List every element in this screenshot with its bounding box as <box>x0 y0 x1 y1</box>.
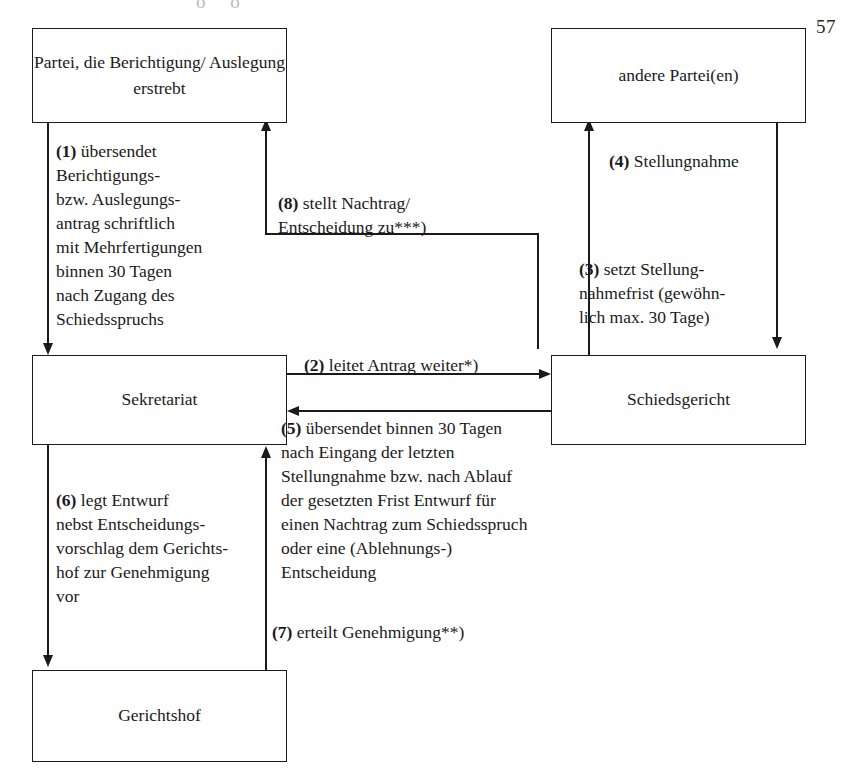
edge-2-label: (2) leitet Antrag weiter*) <box>304 354 554 378</box>
edge-1-text: übersendet Berichtigungs- bzw. Auslegung… <box>56 141 202 329</box>
edge-6-text: legt Entwurf nebst Entscheidungs- vorsch… <box>56 490 228 606</box>
edge-4-number: (4) <box>609 151 629 171</box>
node-party-label: Partei, die Berichtigung/ Auslegung erst… <box>33 50 286 101</box>
scan-artifact: o o <box>196 0 250 13</box>
edge-8-label: (8) stellt Nachtrag/ Entscheidung zu***) <box>278 192 538 240</box>
node-secretariat-label: Sekretariat <box>122 387 198 412</box>
edge-8-number: (8) <box>278 193 298 213</box>
edge-3-text: setzt Stellung- nahmefrist (gewöhn- lich… <box>579 259 725 327</box>
node-other-party-label: andere Partei(en) <box>619 63 739 88</box>
edge-8-text: stellt Nachtrag/ Entscheidung zu***) <box>278 193 426 237</box>
node-tribunal-label: Schiedsgericht <box>627 387 730 412</box>
edge-7-arrowhead <box>261 446 271 458</box>
edge-7-label: (7) erteilt Genehmigung**) <box>272 621 552 645</box>
edge-4-label: (4) Stellungnahme <box>609 150 809 174</box>
edge-1-label: (1) übersendet Berichtigungs- bzw. Ausle… <box>56 140 271 332</box>
edge-5-number: (5) <box>281 418 301 438</box>
edge-8-line-riser <box>537 233 539 349</box>
node-court-label: Gerichtshof <box>118 703 201 728</box>
edge-3-number: (3) <box>579 259 599 279</box>
flowchart-page: o o 57 Partei, die Berichtigung/ Auslegu… <box>0 0 850 778</box>
edge-1-number: (1) <box>56 141 76 161</box>
edge-6-number: (6) <box>56 490 76 510</box>
edge-4-text: Stellungnahme <box>629 151 738 171</box>
node-party: Partei, die Berichtigung/ Auslegung erst… <box>32 28 287 123</box>
node-tribunal: Schiedsgericht <box>551 355 806 445</box>
node-other-party: andere Partei(en) <box>551 28 806 123</box>
edge-7-number: (7) <box>272 622 292 642</box>
edge-1-line <box>47 123 49 349</box>
edge-5-line <box>299 410 551 412</box>
page-number: 57 <box>816 16 836 38</box>
edge-1-arrowhead <box>43 343 53 355</box>
edge-2-number: (2) <box>304 355 324 375</box>
edge-6-label: (6) legt Entwurf nebst Entscheidungs- vo… <box>56 489 271 609</box>
edge-7-text: erteilt Genehmigung**) <box>292 622 464 642</box>
edge-3-arrowhead <box>772 337 782 349</box>
edge-5-label: (5) übersendet binnen 30 Tagen nach Eing… <box>281 417 581 585</box>
edge-3-label: (3) setzt Stellung- nahmefrist (gewöhn- … <box>579 258 759 330</box>
node-court: Gerichtshof <box>32 670 287 762</box>
edge-6-line <box>47 445 49 658</box>
edge-2-text: leitet Antrag weiter*) <box>324 355 478 375</box>
edge-5-arrowhead <box>287 406 299 416</box>
node-secretariat: Sekretariat <box>32 355 287 445</box>
edge-6-arrowhead <box>43 655 53 667</box>
edge-5-text: übersendet binnen 30 Tagen nach Eingang … <box>281 418 527 582</box>
